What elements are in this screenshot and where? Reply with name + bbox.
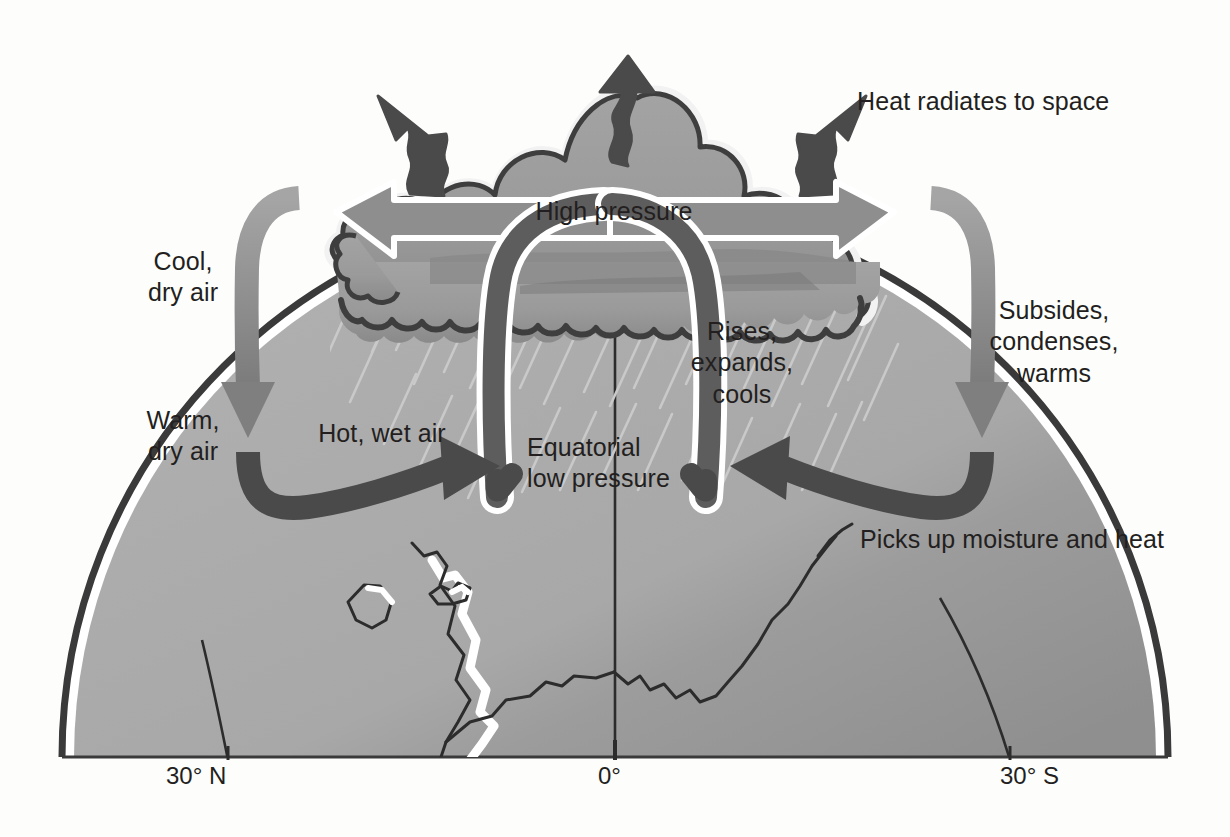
axis-label-lat-30-n: 30° N (166, 762, 226, 790)
label-hot-wet-air: Hot, wet air (272, 418, 492, 449)
axis-label-lat-0: 0° (598, 762, 621, 790)
label-equatorial-low-pressure: Equatorial low pressure (527, 432, 670, 495)
label-rises-expands-cools: Rises, expands, cools (662, 316, 822, 410)
label-cool-dry-air: Cool, dry air (118, 246, 248, 309)
label-heat-radiates-to-space: Heat radiates to space (857, 86, 1109, 117)
axis-label-lat-30-s: 30° S (1000, 762, 1059, 790)
wavy-arrow-up-left-icon (378, 96, 448, 196)
label-high-pressure: High pressure (504, 196, 724, 227)
label-subsides-condenses-warms: Subsides, condenses, warms (948, 295, 1160, 389)
wavy-arrow-up-right-icon (796, 96, 866, 196)
diagram-canvas: Heat radiates to space High pressure Coo… (0, 0, 1230, 837)
label-picks-up-moisture-and-heat: Picks up moisture and heat (860, 524, 1164, 555)
label-warm-dry-air: Warm, dry air (118, 405, 248, 468)
